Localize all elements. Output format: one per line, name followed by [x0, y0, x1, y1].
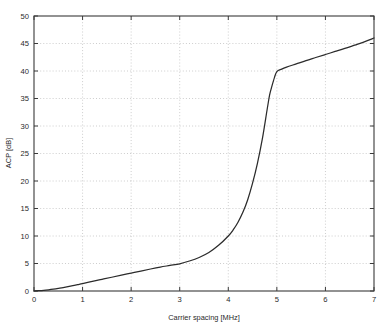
x-axis-label: Carrier spacing [MHz] — [168, 313, 239, 322]
y-tick-label: 0 — [25, 287, 29, 296]
y-tick-label: 5 — [25, 259, 29, 268]
y-tick-label: 35 — [21, 94, 29, 103]
x-tick-label: 1 — [80, 295, 84, 304]
chart-figure: 01234567 05101520253035404550 Carrier sp… — [0, 0, 390, 328]
y-axis-label: ACP [dB] — [4, 138, 13, 168]
x-tick-label: 3 — [178, 295, 182, 304]
x-tick-label: 0 — [32, 295, 36, 304]
x-tick-label: 7 — [372, 295, 376, 304]
x-tick-label: 4 — [226, 295, 230, 304]
y-tick-label: 30 — [21, 122, 29, 131]
y-tick-label: 20 — [21, 177, 29, 186]
x-tick-label: 6 — [323, 295, 327, 304]
chart-svg: 01234567 05101520253035404550 Carrier sp… — [0, 0, 390, 328]
y-tick-label: 10 — [21, 232, 29, 241]
y-tick-label: 50 — [21, 12, 29, 21]
y-tick-label: 45 — [21, 39, 29, 48]
y-tick-label: 25 — [21, 149, 29, 158]
y-tick-label: 40 — [21, 67, 29, 76]
x-tick-label: 2 — [129, 295, 133, 304]
x-tick-label: 5 — [275, 295, 279, 304]
figure-background — [0, 0, 390, 328]
y-tick-label: 15 — [21, 204, 29, 213]
